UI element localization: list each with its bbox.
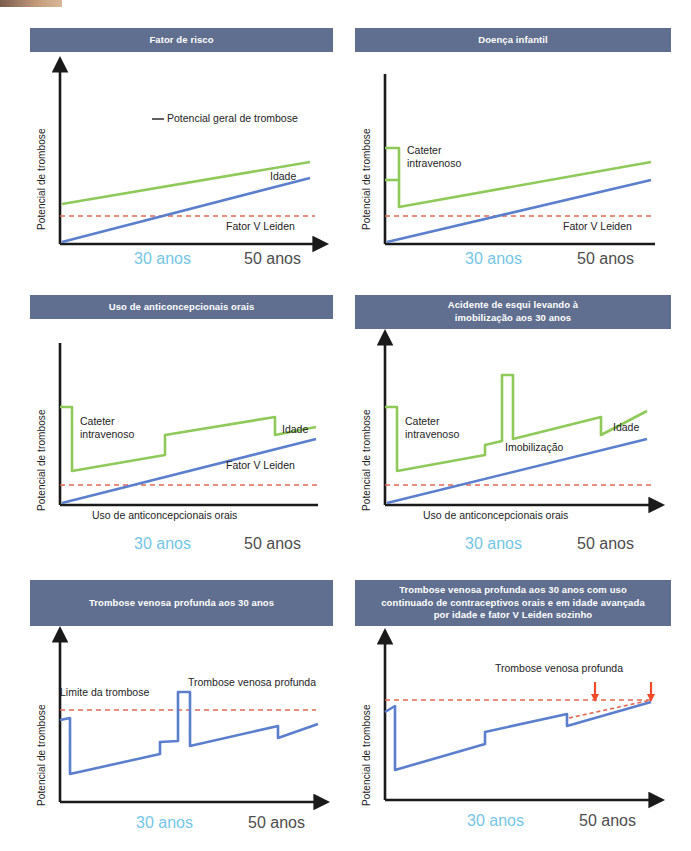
annotation-fvl-3: Fator V Leiden (226, 459, 295, 472)
annotation-fvl-2: Fator V Leiden (563, 220, 632, 233)
arrow-marker-1-6 (591, 682, 599, 702)
chart-svg-1 (30, 52, 333, 267)
xtick-50-3: 50 anos (244, 535, 301, 553)
legend-label-1: Potencial geral de trombose (167, 112, 298, 125)
x-axis-label-4: Uso de anticoncepcionais orais (423, 509, 568, 522)
annotation-idade-1: Idade (270, 170, 296, 183)
xtick-50-2: 50 anos (577, 250, 634, 268)
panel-title-4: Acidente de esqui levando àimobilização … (355, 295, 671, 329)
x-axis-label-3: Uso de anticoncepcionais orais (92, 509, 237, 522)
xtick-50-1: 50 anos (244, 250, 301, 268)
panel-doenca-infantil: Doença infantil Potencial de trombose Ca… (355, 28, 671, 283)
xtick-50-5: 50 anos (248, 814, 305, 832)
series-blue-5 (60, 692, 318, 774)
panel-fator-de-risco: Fator de risco Potencial de trombose Pot… (30, 28, 333, 283)
panel-title-2: Doença infantil (355, 28, 671, 52)
chart-svg-6 (355, 626, 671, 841)
xtick-30-5: 30 anos (136, 814, 193, 832)
plot-area-1: Potencial de trombose Potencial geral de… (30, 52, 333, 267)
annotation-limite-5: Limite da trombose (60, 686, 149, 699)
plot-area-6: Potencial de trombose (355, 626, 671, 841)
chart-svg-5 (30, 626, 333, 841)
plot-area-5: Potencial de trombose Limite da trombose… (30, 626, 333, 841)
annotation-idade-4: Idade (613, 421, 639, 434)
annotation-imobilizacao-4: Imobilização (505, 441, 563, 454)
panel-anticoncepcionais: Uso de anticoncepcionais orais Potencial… (30, 295, 333, 580)
xtick-30-1: 30 anos (134, 250, 191, 268)
xtick-30-2: 30 anos (465, 250, 522, 268)
xtick-30-4: 30 anos (465, 535, 522, 553)
plot-area-2: Potencial de trombose Cateterintravenoso… (355, 52, 671, 267)
panel-title-5: Trombose venosa profunda aos 30 anos (30, 580, 333, 626)
annotation-cateter-2: Cateterintravenoso (407, 144, 461, 170)
chart-svg-3 (30, 319, 333, 559)
annotation-cateter-3: Cateterintravenoso (80, 415, 134, 441)
panel-acidente-esqui: Acidente de esqui levando àimobilização … (355, 295, 671, 580)
annotation-fvl-1: Fator V Leiden (226, 220, 295, 233)
annotation-tvp-5: Trombose venosa profunda (188, 676, 316, 689)
xtick-50-6: 50 anos (579, 812, 636, 830)
chart-svg-2 (355, 52, 671, 267)
projection-dashed-6 (569, 700, 651, 718)
figure-grid: Fator de risco Potencial de trombose Pot… (0, 20, 691, 851)
xtick-30-3: 30 anos (134, 535, 191, 553)
xtick-50-4: 50 anos (577, 535, 634, 553)
panel-title-3: Uso de anticoncepcionais orais (30, 295, 333, 319)
xtick-30-6: 30 anos (467, 812, 524, 830)
panel-tvp-uso-continuado: Trombose venosa profunda aos 30 anos com… (355, 580, 671, 851)
annotation-idade-3: Idade (282, 423, 308, 436)
arrow-marker-2-6 (647, 682, 655, 702)
plot-area-3: Potencial de trombose Cateterintravenoso… (30, 319, 333, 559)
annotation-cateter-4: Cateterintravenoso (405, 415, 459, 441)
plot-area-4: Potencial de trombose Cateterintravenoso… (355, 329, 671, 559)
page-corner-tab (0, 0, 62, 7)
series-blue-6 (385, 702, 651, 770)
panel-title-6: Trombose venosa profunda aos 30 anos com… (355, 580, 671, 626)
panel-tvp-30anos: Trombose venosa profunda aos 30 anos Pot… (30, 580, 333, 851)
panel-title-1: Fator de risco (30, 28, 333, 52)
annotation-tvp-6: Trombose venosa profunda (495, 662, 623, 675)
